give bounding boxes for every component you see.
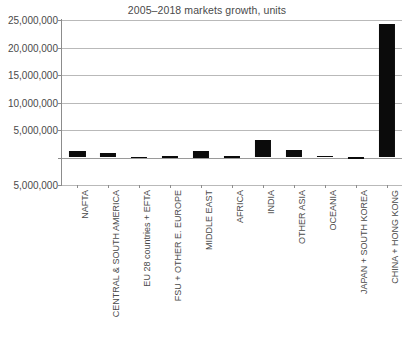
y-axis-tick-label: 5,000,000 bbox=[2, 180, 58, 191]
x-axis-tick-mark bbox=[139, 185, 140, 188]
bar-slot bbox=[247, 20, 278, 185]
y-axis-tick-label: 10,000,000 bbox=[2, 97, 58, 108]
x-axis-tick-mark bbox=[294, 185, 295, 188]
chart-container: 2005–2018 markets growth, units 25,000,0… bbox=[0, 0, 414, 350]
bar[interactable] bbox=[162, 156, 178, 158]
y-axis-tick-label: 5,000,000 bbox=[2, 125, 58, 136]
x-axis-tick-label: OTHER ASIA bbox=[298, 190, 307, 244]
bar[interactable] bbox=[255, 140, 271, 157]
y-axis-labels: 25,000,00020,000,00015,000,00010,000,000… bbox=[0, 0, 58, 350]
bar[interactable] bbox=[131, 157, 147, 159]
x-axis-tick-label: OCEANIA bbox=[329, 190, 338, 231]
bar-slot bbox=[340, 20, 371, 185]
bar[interactable] bbox=[317, 156, 333, 158]
bar[interactable] bbox=[224, 156, 240, 158]
x-axis-tick-label: NAFTA bbox=[81, 190, 90, 219]
bar-slot bbox=[309, 20, 340, 185]
x-axis-tick-mark bbox=[201, 185, 202, 188]
x-axis-tick-label: MIDDLE EAST bbox=[205, 190, 214, 250]
y-axis-tick-label: 25,000,000 bbox=[2, 15, 58, 26]
bar-slot bbox=[93, 20, 124, 185]
x-axis-tick-mark bbox=[325, 185, 326, 188]
bar-slot bbox=[155, 20, 186, 185]
bar-slot bbox=[371, 20, 402, 185]
bar[interactable] bbox=[379, 24, 395, 158]
x-axis-tick-label: JAPAN + SOUTH KOREA bbox=[360, 190, 369, 294]
bar[interactable] bbox=[286, 150, 302, 158]
x-axis-tick-mark bbox=[387, 185, 388, 188]
y-axis-tick-label: 15,000,000 bbox=[2, 70, 58, 81]
x-axis-tick-mark bbox=[77, 185, 78, 188]
bar-slot bbox=[186, 20, 217, 185]
bar[interactable] bbox=[348, 157, 364, 159]
x-axis-tick-label: EU 28 countries + EFTA bbox=[143, 190, 152, 287]
x-axis-tick-mark bbox=[356, 185, 357, 188]
bar-slot bbox=[62, 20, 93, 185]
x-axis-tick-label: CHINA + HONG KONG bbox=[391, 190, 400, 284]
bar-slot bbox=[124, 20, 155, 185]
x-axis-tick-label: CENTRAL & SOUTH AMERICA bbox=[112, 190, 121, 317]
x-axis-tick-label: FSU + OTHER E. EUROPE bbox=[174, 190, 183, 301]
bar-slot bbox=[278, 20, 309, 185]
x-axis-tick-mark bbox=[263, 185, 264, 188]
x-axis-tick-label: AFRICA bbox=[236, 190, 245, 223]
bar-slot bbox=[217, 20, 248, 185]
bar[interactable] bbox=[193, 151, 209, 158]
x-axis-tick-mark bbox=[170, 185, 171, 188]
bar[interactable] bbox=[100, 153, 116, 158]
y-axis-tick-label: 20,000,000 bbox=[2, 42, 58, 53]
chart-title: 2005–2018 markets growth, units bbox=[0, 4, 414, 16]
plot-area bbox=[62, 20, 402, 185]
bar[interactable] bbox=[69, 151, 85, 157]
x-axis-tick-mark bbox=[232, 185, 233, 188]
x-axis-tick-mark bbox=[108, 185, 109, 188]
x-axis-tick-label: INDIA bbox=[267, 190, 276, 214]
